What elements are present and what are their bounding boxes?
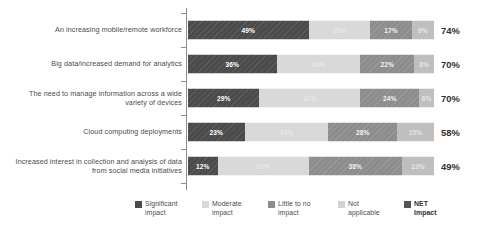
chart-legend: Significant impactModerate impactLittle …: [0, 200, 479, 230]
bar-segment: 36%: [188, 55, 277, 74]
axis-tick: [181, 13, 186, 14]
legend-swatch-icon: [268, 201, 275, 208]
chart-row: An increasing mobile/remote workforce49%…: [0, 13, 479, 47]
axis-tick: [181, 149, 186, 150]
legend-swatch-icon: [135, 201, 142, 208]
net-impact-value: 70%: [441, 59, 477, 70]
bar-segment-value: 49%: [242, 27, 255, 34]
stacked-bar: 23%34%28%15%: [188, 123, 434, 142]
axis-tick: [181, 81, 186, 82]
bar-segment-value: 25%: [333, 27, 346, 34]
chart-row: Cloud computing deployments23%34%28%15%5…: [0, 115, 479, 149]
bar-segment-value: 23%: [210, 129, 223, 136]
chart-row: Big data/increased demand for analytics3…: [0, 47, 479, 81]
bar-segment: 8%: [414, 55, 434, 74]
bar-segment-value: 9%: [418, 27, 428, 34]
bar-segment: 34%: [245, 123, 329, 142]
bar-segment-value: 41%: [303, 95, 316, 102]
bar-segment-value: 8%: [419, 61, 429, 68]
bar-segment-value: 38%: [349, 163, 362, 170]
stacked-bar: 36%34%22%8%: [188, 55, 434, 74]
bar-segment: 38%: [309, 157, 402, 176]
legend-swatch-icon: [202, 201, 209, 208]
stacked-bar: 29%41%24%6%: [188, 89, 434, 108]
legend-item[interactable]: Not applicable: [338, 200, 380, 217]
stacked-bar: 12%37%38%13%: [188, 157, 434, 176]
legend-label: NET Impact: [414, 200, 437, 217]
bar-segment: 49%: [188, 21, 309, 40]
bar-segment: 28%: [328, 123, 397, 142]
legend-label: Little to no impact: [278, 200, 311, 217]
net-impact-value: 70%: [441, 93, 477, 104]
bar-segment-value: 22%: [381, 61, 394, 68]
bar-segment: 24%: [360, 89, 419, 108]
bar-segment-value: 29%: [217, 95, 230, 102]
bar-segment: 13%: [402, 157, 434, 176]
bar-segment: 6%: [419, 89, 434, 108]
bar-segment: 34%: [277, 55, 361, 74]
bar-segment: 22%: [360, 55, 414, 74]
legend-item[interactable]: Little to no impact: [268, 200, 311, 217]
legend-swatch-icon: [338, 201, 345, 208]
legend-label: Moderate impact: [212, 200, 242, 217]
bar-rows: An increasing mobile/remote workforce49%…: [0, 8, 479, 190]
axis-tick: [181, 183, 186, 184]
category-label: Cloud computing deployments: [4, 127, 182, 136]
bar-segment-value: 12%: [196, 163, 209, 170]
bar-segment-value: 24%: [383, 95, 396, 102]
bar-segment: 12%: [188, 157, 218, 176]
bar-segment-value: 34%: [312, 61, 325, 68]
legend-item[interactable]: Moderate impact: [202, 200, 242, 217]
bar-segment-value: 13%: [411, 163, 424, 170]
plot-area: An increasing mobile/remote workforce49%…: [0, 8, 479, 190]
chart-row: Increased interest in collection and ana…: [0, 149, 479, 183]
net-impact-value: 58%: [441, 127, 477, 138]
bar-segment-value: 6%: [422, 95, 432, 102]
category-label: Big data/increased demand for analytics: [4, 59, 182, 68]
bar-segment-value: 36%: [226, 61, 239, 68]
bar-segment-value: 28%: [356, 129, 369, 136]
bar-segment-value: 34%: [280, 129, 293, 136]
legend-label: Significant impact: [145, 200, 178, 217]
stacked-bar: 49%25%17%9%: [188, 21, 434, 40]
bar-segment: 37%: [218, 157, 309, 176]
axis-tick: [181, 115, 186, 116]
category-label: Increased interest in collection and ana…: [4, 157, 182, 175]
bar-segment: 15%: [397, 123, 434, 142]
category-label: The need to manage information across a …: [4, 89, 182, 107]
net-impact-value: 49%: [441, 161, 477, 172]
stacked-bar-chart: An increasing mobile/remote workforce49%…: [0, 0, 479, 238]
legend-item[interactable]: Significant impact: [135, 200, 178, 217]
axis-tick: [181, 47, 186, 48]
bar-segment: 41%: [259, 89, 360, 108]
legend-swatch-icon: [404, 201, 411, 208]
bar-segment: 9%: [412, 21, 434, 40]
bar-segment: 25%: [309, 21, 371, 40]
chart-row: The need to manage information across a …: [0, 81, 479, 115]
legend-label: Not applicable: [348, 200, 380, 217]
bar-segment: 29%: [188, 89, 259, 108]
net-impact-value: 74%: [441, 25, 477, 36]
bar-segment-value: 37%: [256, 163, 269, 170]
bar-segment-value: 17%: [384, 27, 397, 34]
bar-segment: 23%: [188, 123, 245, 142]
legend-item[interactable]: NET Impact: [404, 200, 437, 217]
bar-segment: 17%: [370, 21, 412, 40]
category-label: An increasing mobile/remote workforce: [4, 25, 182, 34]
bar-segment-value: 15%: [409, 129, 422, 136]
